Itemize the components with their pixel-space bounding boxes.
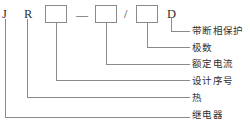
code-slash: / bbox=[124, 8, 127, 20]
code-letter-r: R bbox=[24, 8, 33, 21]
leader-relay bbox=[5, 19, 189, 117]
code-box-2 bbox=[95, 5, 117, 23]
code-box-1 bbox=[45, 5, 67, 23]
code-dash: — bbox=[76, 9, 88, 21]
label-design-serial-number: 设计序号 bbox=[192, 76, 233, 86]
leader-design-serial-number bbox=[56, 23, 189, 81]
label-phase-failure-protection: 带断相保护 bbox=[192, 26, 244, 36]
model-code-row: JR—/D bbox=[0, 0, 250, 26]
label-relay: 继电器 bbox=[192, 110, 223, 120]
label-rated-current: 额定电流 bbox=[192, 59, 233, 69]
label-thermal: 热 bbox=[192, 93, 202, 103]
model-designation-diagram: JR—/D 带断相保护极数额定电流设计序号热继电器 bbox=[0, 0, 250, 128]
leader-thermal bbox=[27, 19, 189, 98]
code-box-3 bbox=[136, 5, 158, 23]
leader-pole-count bbox=[147, 23, 189, 48]
code-letter-j: J bbox=[2, 8, 7, 21]
code-letter-d: D bbox=[167, 8, 176, 21]
label-pole-count: 极数 bbox=[192, 43, 213, 53]
